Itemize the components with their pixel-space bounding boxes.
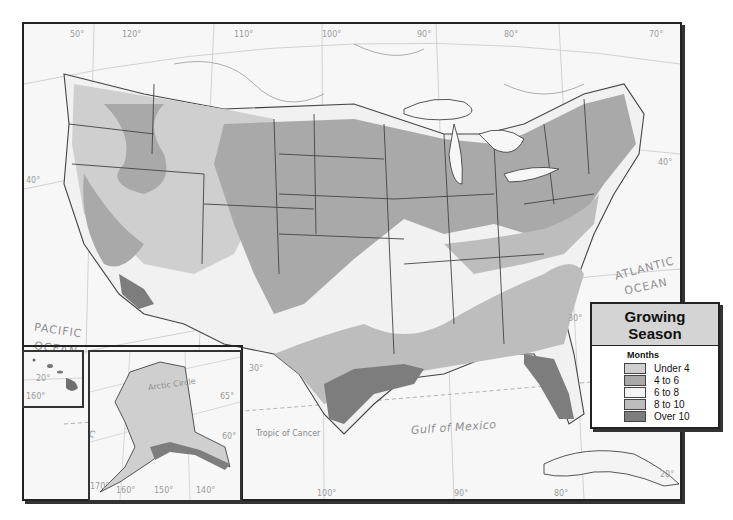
lon-label-70: 70°: [649, 30, 663, 39]
legend-label: Under 4: [654, 363, 690, 374]
alaska-lat-60: 60°: [222, 432, 236, 441]
legend-title: Growing Season: [592, 304, 718, 346]
swatch-6-to-8: [624, 387, 646, 398]
legend-label: Over 10: [654, 411, 690, 422]
legend-items: Under 4 4 to 6 6 to 8 8 to 10 Over 10: [624, 362, 718, 422]
swatch-8-to-10: [624, 399, 646, 410]
lat-label-30-right: 30°: [568, 314, 582, 323]
lon-bottom-90: 90°: [454, 489, 468, 498]
legend: Growing Season Months Under 4 4 to 6 6 t…: [590, 302, 720, 429]
legend-title-line1: Growing: [592, 308, 718, 325]
swatch-under-4: [624, 363, 646, 374]
lon-label-100: 100°: [322, 30, 341, 39]
alaska-inset: Arctic Circle PACIFIC OCEAN 170° 160° 15…: [88, 350, 242, 502]
lat-label-20-right: 20°: [660, 470, 674, 479]
lon-label-110: 110°: [234, 30, 253, 39]
alaska-lon-140: 140°: [196, 486, 215, 495]
cuba-outline: [544, 451, 679, 486]
legend-item-4-to-6: 4 to 6: [624, 374, 718, 386]
hawaii-inset: 20° 160°: [22, 350, 84, 408]
legend-item-8-to-10: 8 to 10: [624, 398, 718, 410]
alaska-lon-150: 150°: [154, 486, 173, 495]
lat-label-40: 40°: [26, 176, 40, 185]
tropic-of-cancer-label: Tropic of Cancer: [256, 429, 320, 438]
lat-label-40-right: 40°: [658, 158, 672, 167]
lon-label-80: 80°: [504, 30, 518, 39]
lon-bottom-80: 80°: [554, 489, 568, 498]
legend-subtitle: Months: [592, 350, 718, 360]
lat-label-30: 30°: [249, 364, 263, 373]
alaska-lon-170: 170°: [90, 482, 109, 491]
hawaii-lon-160: 160°: [26, 392, 45, 401]
hawaii-lat-20: 20°: [36, 374, 50, 383]
lat-label-50: 50°: [70, 30, 84, 39]
alaska-lat-65: 65°: [220, 392, 234, 401]
legend-item-under-4: Under 4: [624, 362, 718, 374]
alaska-lon-160: 160°: [116, 486, 135, 495]
lon-label-90: 90°: [417, 30, 431, 39]
legend-item-over-10: Over 10: [624, 410, 718, 422]
legend-title-line2: Season: [592, 325, 718, 342]
lon-bottom-100: 100°: [317, 489, 336, 498]
alaska-graphic: [90, 352, 240, 500]
legend-label: 4 to 6: [654, 375, 679, 386]
legend-item-6-to-8: 6 to 8: [624, 386, 718, 398]
lon-label-120: 120°: [122, 30, 141, 39]
legend-label: 6 to 8: [654, 387, 679, 398]
legend-label: 8 to 10: [654, 399, 685, 410]
swatch-4-to-6: [624, 375, 646, 386]
swatch-over-10: [624, 411, 646, 422]
